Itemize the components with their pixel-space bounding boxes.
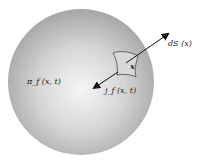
point-label: x: [129, 61, 135, 71]
current-label: j_f (x, t): [103, 86, 136, 95]
density-label: π_f (x, t): [26, 77, 61, 86]
surface-element-label: dS (x): [168, 39, 192, 48]
diagram-canvas: π_f (x, t) dS (x) x j_f (x, t): [0, 0, 208, 167]
